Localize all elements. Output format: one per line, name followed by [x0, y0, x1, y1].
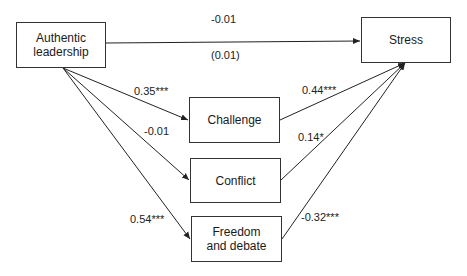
node-challenge: Challenge	[189, 97, 280, 143]
coef-indirect-total: (0.01)	[211, 49, 240, 61]
node-conflict: Conflict	[190, 158, 281, 203]
edge-al-freedom	[63, 68, 190, 239]
node-stress: Stress	[361, 17, 451, 63]
node-authentic-label-2: leadership	[33, 45, 88, 59]
edge-challenge-stress	[280, 63, 405, 120]
node-stress-label: Stress	[389, 33, 423, 47]
node-authentic-label-1: Authentic	[33, 31, 88, 45]
node-conflict-label: Conflict	[215, 174, 255, 188]
edge-conflict-stress	[281, 63, 405, 180]
coef-al-challenge: 0.35***	[134, 85, 168, 97]
coef-direct: -0.01	[211, 13, 236, 25]
node-freedom-label-1: Freedom	[206, 225, 266, 239]
coef-al-conflict: -0.01	[144, 125, 169, 137]
edge-al-conflict	[63, 68, 189, 180]
node-freedom-label-2: and debate	[206, 239, 266, 253]
coef-freedom-stress: -0.32***	[301, 211, 339, 223]
node-authentic-leadership: Authentic leadership	[16, 22, 106, 68]
edge-direct	[106, 41, 360, 43]
node-challenge-label: Challenge	[207, 113, 261, 127]
coef-conflict-stress: 0.14*	[298, 131, 324, 143]
coef-al-freedom: 0.54***	[130, 213, 164, 225]
coef-challenge-stress: 0.44***	[302, 84, 336, 96]
node-freedom-debate: Freedom and debate	[191, 216, 282, 262]
